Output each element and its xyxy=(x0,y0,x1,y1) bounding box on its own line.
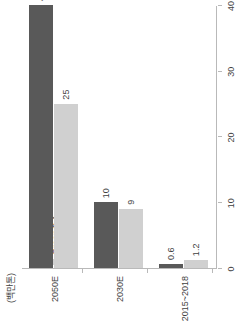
bar-blue-hydrogen[interactable]: 0.6 xyxy=(159,264,183,268)
value-axis-tick xyxy=(218,202,222,203)
value-axis-tick xyxy=(218,137,222,138)
bar-value-label: 1.2 xyxy=(191,244,201,257)
plot-area: 2050E40252030E1092015~20180.61.2 0102030… xyxy=(22,6,217,269)
category-label: 2050E xyxy=(50,273,60,302)
bar-green-hydrogen[interactable]: 9 xyxy=(119,209,143,268)
bar-value-label: 0.6 xyxy=(166,248,176,261)
value-axis-tick-label: 0 xyxy=(226,266,236,271)
category-axis-tick xyxy=(82,269,83,273)
value-axis-ticks: 010203040 xyxy=(217,6,218,269)
bar-value-label: 9 xyxy=(126,200,136,205)
bar-value-label: 25 xyxy=(61,90,71,100)
bar-green-hydrogen[interactable]: 1.2 xyxy=(184,260,208,268)
category-axis-tick xyxy=(147,269,148,273)
bar-value-label: 10 xyxy=(101,188,111,198)
bar-blue-hydrogen[interactable]: 40 xyxy=(29,5,53,268)
value-axis-tick-label: 20 xyxy=(226,132,236,142)
value-axis-tick-label: 40 xyxy=(226,1,236,11)
value-axis-tick xyxy=(218,71,222,72)
bar-group: 2030E109 xyxy=(92,6,148,269)
category-label: 2030E xyxy=(115,273,125,302)
value-axis-tick-label: 10 xyxy=(226,198,236,208)
value-axis-tick xyxy=(218,5,222,6)
axis-unit-label: (백만톤) xyxy=(4,273,17,303)
bar-green-hydrogen[interactable]: 25 xyxy=(54,104,78,268)
category-axis-tick xyxy=(212,269,213,273)
bar-blue-hydrogen[interactable]: 10 xyxy=(94,202,118,268)
bar-group: 2050E4025 xyxy=(27,6,83,269)
category-label: 2015~2018 xyxy=(180,273,190,321)
value-axis-tick xyxy=(218,268,222,269)
value-axis-tick-label: 30 xyxy=(226,67,236,77)
bar-groups: 2050E40252030E1092015~20180.61.2 xyxy=(22,6,217,269)
bar-value-label: 40 xyxy=(36,0,46,1)
bar-group: 2015~20180.61.2 xyxy=(157,6,213,269)
